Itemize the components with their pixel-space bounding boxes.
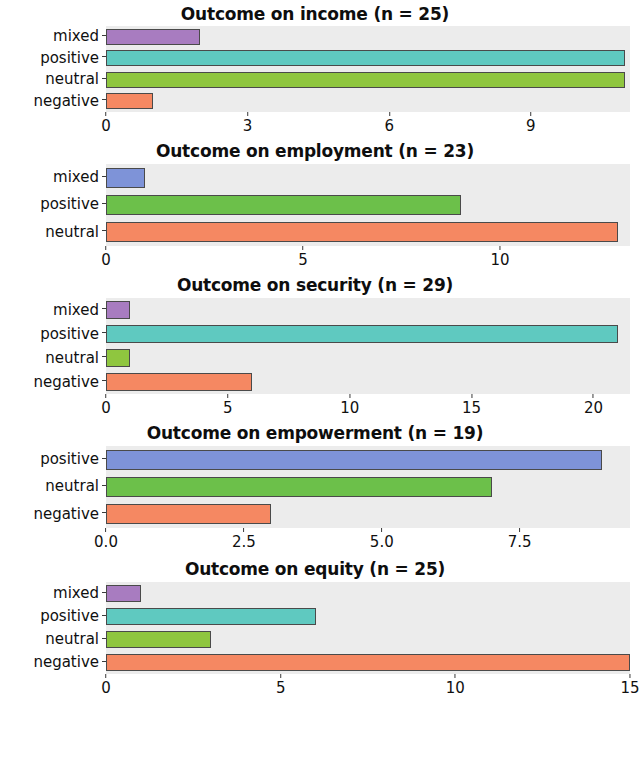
- bar-neutral[interactable]: [106, 477, 492, 497]
- bar-positive[interactable]: [106, 450, 602, 470]
- x-tick-label: 0: [101, 119, 111, 134]
- bar-negative[interactable]: [106, 654, 630, 671]
- y-axis-labels: mixedpositiveneutralnegative: [0, 298, 106, 394]
- y-tick-label: negative: [33, 94, 99, 109]
- x-tick: 6: [384, 112, 394, 134]
- bar-positive[interactable]: [106, 608, 316, 625]
- x-tick-mark-icon: [519, 528, 520, 532]
- bar-neutral[interactable]: [106, 72, 625, 88]
- x-tick: 0: [101, 674, 111, 696]
- x-tick-mark-icon: [247, 112, 248, 116]
- x-tick: 5: [223, 394, 233, 416]
- y-tick-label: mixed: [53, 29, 99, 44]
- x-tick-label: 10: [490, 253, 509, 268]
- chart-title: Outcome on security (n = 29): [0, 272, 630, 298]
- plot-area: mixedpositiveneutralnegative: [0, 582, 630, 674]
- y-tick-label: positive: [40, 327, 99, 342]
- chart-panel-0: Outcome on income (n = 25)mixedpositiven…: [0, 0, 630, 138]
- x-axis: 05101520: [0, 394, 630, 420]
- x-tick-label: 20: [584, 401, 603, 416]
- bar-row: [106, 322, 630, 346]
- x-tick-mark-icon: [105, 112, 106, 116]
- x-tick-label: 5: [298, 253, 308, 268]
- x-axis-track: 051015: [106, 674, 630, 700]
- x-tick: 0: [101, 112, 111, 134]
- y-tick-label: neutral: [45, 479, 99, 494]
- bar-positive[interactable]: [106, 50, 625, 66]
- x-tick-mark-icon: [105, 674, 106, 678]
- x-tick-label: 10: [446, 681, 465, 696]
- x-tick-mark-icon: [243, 528, 244, 532]
- x-tick-label: 3: [243, 119, 253, 134]
- x-tick: 3: [243, 112, 253, 134]
- y-tick-neutral: neutral: [0, 69, 106, 91]
- bar-row: [106, 473, 630, 500]
- chart-title: Outcome on empowerment (n = 19): [0, 420, 630, 446]
- x-tick-mark-icon: [349, 394, 350, 398]
- x-tick-mark-icon: [499, 246, 500, 250]
- bar-row: [106, 446, 630, 473]
- y-tick-neutral: neutral: [0, 346, 106, 370]
- bar-negative[interactable]: [106, 504, 271, 524]
- chart-panel-3: Outcome on empowerment (n = 19)positiven…: [0, 420, 630, 556]
- bar-group: [106, 26, 630, 112]
- chart-title: Outcome on employment (n = 23): [0, 138, 630, 164]
- y-tick-positive: positive: [0, 191, 106, 218]
- x-tick-mark-icon: [381, 528, 382, 532]
- x-tick: 20: [584, 394, 603, 416]
- x-axis-track: 0510: [106, 246, 630, 272]
- bar-row: [106, 298, 630, 322]
- y-tick-neutral: neutral: [0, 219, 106, 246]
- bar-neutral[interactable]: [106, 222, 618, 242]
- bar-row: [106, 48, 630, 70]
- x-tick-mark-icon: [630, 674, 631, 678]
- bar-row: [106, 191, 630, 218]
- y-tick-positive: positive: [0, 446, 106, 473]
- x-axis: 051015: [0, 674, 630, 698]
- y-axis-labels: mixedpositiveneutral: [0, 164, 106, 246]
- bar-positive[interactable]: [106, 325, 618, 343]
- x-tick-label: 15: [462, 401, 481, 416]
- x-tick: 10: [340, 394, 359, 416]
- y-tick-label: mixed: [53, 586, 99, 601]
- x-tick-label: 5: [223, 401, 233, 416]
- x-tick-label: 2.5: [232, 535, 256, 550]
- plot-area: mixedpositiveneutral: [0, 164, 630, 246]
- bar-row: [106, 219, 630, 246]
- x-tick: 0: [101, 394, 111, 416]
- bar-mixed[interactable]: [106, 168, 145, 188]
- x-tick-label: 5: [276, 681, 286, 696]
- y-tick-neutral: neutral: [0, 473, 106, 500]
- bar-row: [106, 164, 630, 191]
- x-tick-label: 0: [101, 401, 111, 416]
- y-tick-label: neutral: [45, 351, 99, 366]
- bar-negative[interactable]: [106, 373, 252, 391]
- plot-area: mixedpositiveneutralnegative: [0, 298, 630, 394]
- bar-neutral[interactable]: [106, 349, 130, 367]
- x-tick-label: 0: [101, 681, 111, 696]
- x-tick: 5.0: [370, 528, 394, 550]
- x-tick-mark-icon: [455, 674, 456, 678]
- bar-row: [106, 605, 630, 628]
- y-tick-label: positive: [40, 609, 99, 624]
- y-tick-negative: negative: [0, 91, 106, 113]
- x-tick: 5: [298, 246, 308, 268]
- x-tick: 9: [526, 112, 536, 134]
- y-tick-label: negative: [33, 375, 99, 390]
- x-tick-label: 0.0: [94, 535, 118, 550]
- bar-mixed[interactable]: [106, 585, 141, 602]
- x-axis-track: 0369: [106, 112, 630, 138]
- bar-group: [106, 582, 630, 674]
- plot-area: mixedpositiveneutralnegative: [0, 26, 630, 112]
- y-tick-label: neutral: [45, 632, 99, 647]
- x-tick-mark-icon: [530, 112, 531, 116]
- y-axis-labels: positiveneutralnegative: [0, 446, 106, 528]
- bar-mixed[interactable]: [106, 29, 200, 45]
- bar-negative[interactable]: [106, 93, 153, 109]
- y-tick-negative: negative: [0, 501, 106, 528]
- x-tick: 5: [276, 674, 286, 696]
- x-tick-label: 7.5: [508, 535, 532, 550]
- bar-neutral[interactable]: [106, 631, 211, 648]
- bar-positive[interactable]: [106, 195, 461, 215]
- bar-mixed[interactable]: [106, 301, 130, 319]
